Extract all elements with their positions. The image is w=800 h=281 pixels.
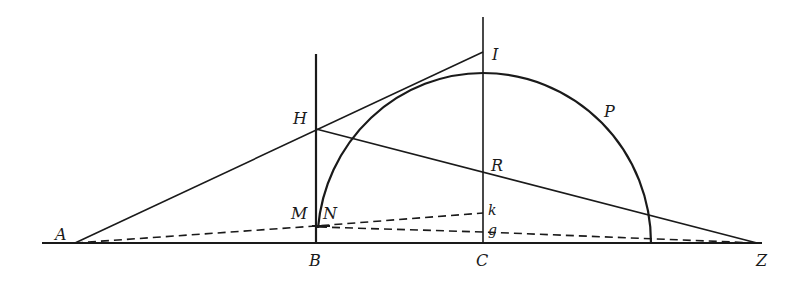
line-h-z xyxy=(316,129,757,243)
label-r: R xyxy=(490,156,503,175)
label-a: A xyxy=(53,225,67,244)
label-m: M xyxy=(290,204,308,223)
geometry-diagram: A B C Z H I R P M N k g xyxy=(0,0,800,281)
label-n: N xyxy=(322,204,338,223)
label-k: k xyxy=(488,202,496,218)
label-p: P xyxy=(603,102,615,121)
dashed-line-n-z xyxy=(319,227,757,243)
label-z: Z xyxy=(755,251,768,270)
label-c: C xyxy=(476,251,488,270)
arc-p xyxy=(318,73,651,243)
label-b: B xyxy=(308,251,321,270)
label-h: H xyxy=(292,109,308,128)
label-g: g xyxy=(488,222,497,238)
dashed-line-a-k xyxy=(75,213,483,243)
line-a-i xyxy=(75,52,483,243)
label-i: I xyxy=(491,45,499,64)
